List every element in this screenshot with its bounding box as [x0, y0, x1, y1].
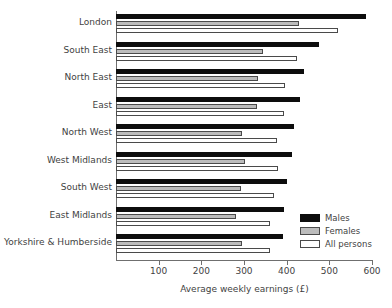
bar-all-persons — [116, 111, 284, 116]
x-tick-label: 600 — [352, 266, 392, 276]
x-tick-mark — [287, 261, 288, 265]
bar-females — [116, 49, 263, 54]
bar-group — [116, 179, 372, 203]
legend-label-females: Females — [325, 227, 360, 236]
legend-label-all-persons: All persons — [325, 240, 372, 249]
bar-males — [116, 97, 300, 102]
legend-swatch-females-icon — [300, 227, 320, 235]
bar-females — [116, 186, 241, 191]
bar-females — [116, 214, 236, 219]
y-axis-label: Yorkshire & Humberside — [0, 238, 112, 247]
y-axis-label: North West — [0, 128, 112, 137]
bar-females — [116, 241, 242, 246]
bar-females — [116, 159, 245, 164]
y-axis-label: East Midlands — [0, 211, 112, 220]
bar-group — [116, 97, 372, 121]
bar-males — [116, 124, 294, 129]
x-tick-mark — [244, 261, 245, 265]
bar-males — [116, 207, 284, 212]
x-tick-mark — [159, 261, 160, 265]
x-tick-label: 400 — [267, 266, 307, 276]
legend-item-females: Females — [300, 225, 384, 237]
bar-chart: LondonSouth EastNorth EastEastNorth West… — [0, 0, 392, 308]
bar-males — [116, 152, 292, 157]
bar-females — [116, 21, 299, 26]
legend-label-males: Males — [325, 214, 350, 223]
legend-swatch-all-persons-icon — [300, 240, 320, 248]
bar-females — [116, 131, 242, 136]
x-tick-mark — [329, 261, 330, 265]
bar-group — [116, 124, 372, 148]
y-axis-label: West Midlands — [0, 156, 112, 165]
x-tick-label: 100 — [139, 266, 179, 276]
bar-females — [116, 104, 257, 109]
legend-item-males: Males — [300, 212, 384, 224]
y-axis-label: London — [0, 18, 112, 27]
bar-group — [116, 42, 372, 66]
bar-all-persons — [116, 221, 270, 226]
x-tick-mark — [201, 261, 202, 265]
y-axis-label: East — [0, 101, 112, 110]
x-axis-title: Average weekly earnings (£) — [116, 284, 373, 294]
bar-females — [116, 76, 258, 81]
bar-all-persons — [116, 138, 277, 143]
y-axis-label: South West — [0, 183, 112, 192]
bar-all-persons — [116, 28, 338, 33]
bar-males — [116, 14, 366, 19]
legend-item-all-persons: All persons — [300, 238, 384, 250]
bar-males — [116, 42, 319, 47]
y-axis-label: South East — [0, 46, 112, 55]
x-tick-mark — [372, 261, 373, 265]
x-tick-label: 300 — [224, 266, 264, 276]
bar-all-persons — [116, 248, 270, 253]
bar-all-persons — [116, 83, 285, 88]
y-axis-label: North East — [0, 73, 112, 82]
bar-group — [116, 14, 372, 38]
bar-group — [116, 69, 372, 93]
legend-swatch-males-icon — [300, 214, 320, 222]
x-tick-label: 500 — [309, 266, 349, 276]
chart-legend: Males Females All persons — [300, 212, 384, 251]
bar-males — [116, 234, 283, 239]
bar-all-persons — [116, 193, 274, 198]
bar-group — [116, 152, 372, 176]
bar-all-persons — [116, 56, 297, 61]
bar-all-persons — [116, 166, 278, 171]
y-axis-category-labels: LondonSouth EastNorth EastEastNorth West… — [0, 12, 112, 260]
bar-males — [116, 179, 287, 184]
bar-males — [116, 69, 304, 74]
x-tick-label: 200 — [181, 266, 221, 276]
